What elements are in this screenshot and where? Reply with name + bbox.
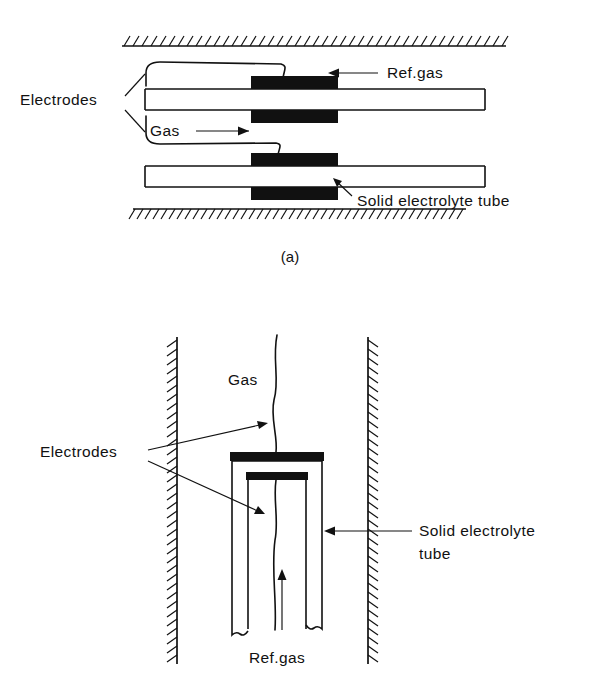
panel-b-inner-wire bbox=[274, 480, 277, 630]
panel-a-gas-label: Gas bbox=[150, 122, 180, 139]
panel-b-electrodes-label: Electrodes bbox=[40, 443, 117, 460]
panel-a-top-wall bbox=[122, 36, 508, 46]
lower-tube-electrode-inner bbox=[251, 187, 338, 200]
panel-b-tube bbox=[230, 452, 324, 635]
top-wall-hatching bbox=[124, 36, 508, 46]
panel-b-electrodes-leader-top bbox=[148, 421, 268, 450]
panel-b-refgas-arrow bbox=[278, 569, 287, 630]
figure-root: Electrodes Gas Ref.gas Solid electrolyte… bbox=[0, 0, 595, 674]
panel-a-electrodes-leader-down bbox=[125, 110, 145, 132]
panel-a-bottom-wall bbox=[129, 209, 466, 219]
panel-a-tube-label: Solid electrolyte tube bbox=[357, 192, 510, 209]
panel-a-electrodes-leader-up bbox=[125, 74, 145, 96]
panel-b: Gas Electrodes Solid electrolyte tube bbox=[40, 335, 535, 666]
panel-b-left-wall bbox=[167, 337, 177, 664]
panel-a-electrodes-label: Electrodes bbox=[20, 91, 97, 108]
outer-electrode-bar bbox=[230, 452, 324, 461]
panel-b-right-wall bbox=[368, 337, 378, 664]
lower-tube-electrode-outer bbox=[251, 153, 338, 166]
panel-b-tube-label-line1: Solid electrolyte bbox=[419, 522, 535, 539]
upper-tube-electrode-inner bbox=[251, 110, 338, 123]
inner-electrode-bar bbox=[246, 472, 308, 480]
panel-b-tube-label-line2: tube bbox=[419, 545, 451, 562]
panel-b-refgas-label: Ref.gas bbox=[249, 649, 305, 666]
panel-b-gas-label: Gas bbox=[228, 371, 258, 388]
panel-a: Electrodes Gas Ref.gas Solid electrolyte… bbox=[20, 36, 510, 265]
right-wall-hatching bbox=[368, 340, 378, 662]
panel-a-caption: (a) bbox=[281, 248, 299, 265]
panel-a-gas-arrow bbox=[196, 127, 249, 136]
left-wall-hatching bbox=[167, 340, 177, 662]
technical-diagram: Electrodes Gas Ref.gas Solid electrolyte… bbox=[0, 0, 595, 674]
panel-a-upper-tube bbox=[145, 76, 485, 123]
panel-a-refgas-label: Ref.gas bbox=[387, 64, 443, 81]
bottom-wall-hatching bbox=[129, 209, 463, 219]
upper-tube-electrode-outer bbox=[251, 76, 338, 89]
panel-b-gas-wire bbox=[273, 335, 277, 452]
